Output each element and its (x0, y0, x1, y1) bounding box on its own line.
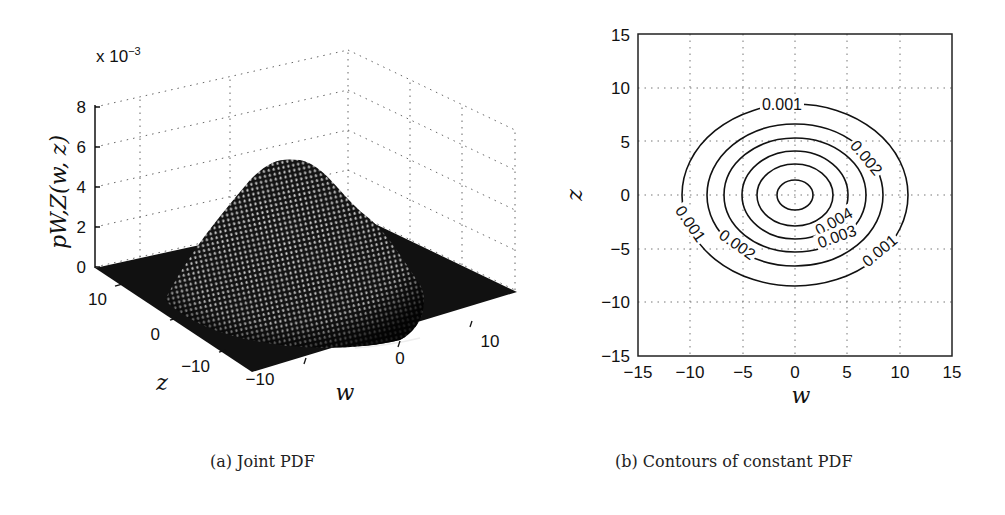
contour-labels: 0.001 0.002 0.001 0.002 0.004 0.003 (671, 96, 902, 271)
ztick-4: 4 (77, 178, 86, 197)
ztick-0: 0 (77, 258, 86, 277)
contour-label-0.002-left: 0.002 (716, 226, 759, 263)
w-tick-neg10: −10 (246, 370, 275, 389)
ytick-0: 0 (621, 186, 630, 205)
xtick-0: 0 (790, 363, 799, 382)
ztick-6: 6 (77, 138, 86, 157)
z-value-axis (95, 105, 100, 268)
z-depth-tick-neg10: −10 (181, 357, 210, 376)
contour-gridlines (638, 34, 952, 356)
contour-label-0.002-right: 0.002 (847, 137, 886, 179)
w-tick-0: 0 (395, 349, 404, 368)
ytick-5: 5 (621, 133, 630, 152)
contour-panel: 0.001 0.002 0.001 0.002 0.004 0.003 (560, 0, 1005, 515)
caption-a: (a) Joint PDF (210, 452, 315, 471)
ytick-neg5: −5 (611, 240, 630, 259)
w-axis-label: w (336, 380, 355, 405)
z-depth-tick-10: 10 (88, 290, 107, 309)
xtick-neg15: −15 (624, 363, 653, 382)
contour-label-0.001-left: 0.001 (672, 202, 709, 245)
contour-z-axis-label: z (562, 189, 587, 202)
z-depth-tick-0: 0 (151, 325, 160, 344)
joint-pdf-surface-panel: 8 6 4 2 0 x 10−3 pW,Z(w, z) 10 0 −10 z −… (0, 0, 560, 515)
xtick-neg5: −5 (733, 363, 752, 382)
surface-plot: 8 6 4 2 0 x 10−3 pW,Z(w, z) 10 0 −10 z −… (0, 0, 560, 515)
ztick-8: 8 (77, 98, 86, 117)
ytick-15: 15 (611, 26, 630, 45)
z-depth-axis-label: z (155, 370, 168, 395)
xtick-15: 15 (943, 363, 962, 382)
z-multiplier: x 10−3 (96, 45, 141, 66)
xtick-5: 5 (842, 363, 851, 382)
ytick-neg10: −10 (601, 293, 630, 312)
ztick-2: 2 (77, 218, 86, 237)
xtick-10: 10 (891, 363, 910, 382)
pdf-axis-label: pW,Z(w, z) (46, 135, 71, 249)
contour-w-axis-label: w (792, 383, 811, 408)
contour-label-0.001-top: 0.001 (762, 96, 802, 113)
xtick-neg10: −10 (676, 363, 705, 382)
w-tick-10: 10 (481, 332, 500, 351)
caption-b: (b) Contours of constant PDF (615, 452, 853, 471)
ytick-10: 10 (611, 79, 630, 98)
contour-plot: 0.001 0.002 0.001 0.002 0.004 0.003 (560, 0, 1005, 515)
